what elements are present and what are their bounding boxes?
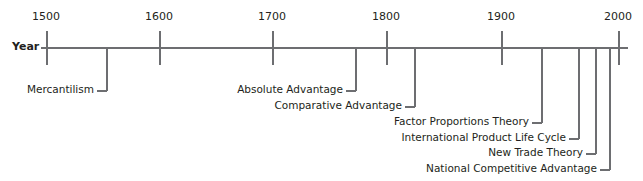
event-stub-factor-proportions — [532, 122, 542, 124]
tick-mark-1900 — [501, 31, 503, 65]
event-connector-factor-proportions — [541, 47, 543, 123]
event-connector-comparative-advantage — [414, 47, 416, 107]
event-stub-new-trade-theory — [586, 153, 596, 155]
event-stub-absolute-advantage — [346, 90, 356, 92]
event-label-comparative-advantage: Comparative Advantage — [274, 99, 402, 111]
event-label-national-competitive-advantage: National Competitive Advantage — [426, 162, 597, 174]
event-connector-new-trade-theory — [595, 47, 597, 154]
tick-label-1900: 1900 — [487, 10, 515, 23]
event-label-factor-proportions: Factor Proportions Theory — [394, 115, 529, 127]
tick-mark-1700 — [272, 31, 274, 65]
tick-mark-2000 — [618, 31, 620, 65]
event-stub-product-life-cycle — [569, 138, 579, 140]
timeline-axis — [41, 47, 628, 49]
event-connector-mercantilism — [106, 47, 108, 91]
tick-label-1800: 1800 — [372, 10, 400, 23]
event-stub-national-competitive-advantage — [600, 169, 610, 171]
tick-label-2000: 2000 — [604, 10, 632, 23]
event-connector-absolute-advantage — [355, 47, 357, 91]
tick-mark-1800 — [386, 31, 388, 65]
tick-mark-1600 — [159, 31, 161, 65]
event-label-product-life-cycle: International Product Life Cycle — [401, 131, 566, 143]
event-connector-product-life-cycle — [578, 47, 580, 139]
tick-mark-1500 — [46, 31, 48, 65]
tick-label-1700: 1700 — [258, 10, 286, 23]
event-label-mercantilism: Mercantilism — [27, 83, 94, 95]
event-stub-mercantilism — [97, 90, 107, 92]
tick-label-1500: 1500 — [32, 10, 60, 23]
event-stub-comparative-advantage — [405, 106, 415, 108]
event-connector-national-competitive-advantage — [609, 47, 611, 170]
event-label-new-trade-theory: New Trade Theory — [488, 146, 583, 158]
event-label-absolute-advantage: Absolute Advantage — [237, 83, 343, 95]
axis-label: Year — [12, 40, 39, 53]
tick-label-1600: 1600 — [145, 10, 173, 23]
